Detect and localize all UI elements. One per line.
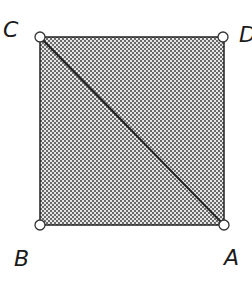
label-d: D	[239, 22, 252, 47]
vertex-a	[219, 220, 229, 230]
vertex-b	[35, 220, 45, 230]
label-a: A	[222, 245, 239, 270]
label-b: B	[14, 246, 29, 271]
label-c: C	[3, 17, 19, 42]
square-diagram: C D B A	[0, 0, 252, 290]
vertex-c	[35, 32, 45, 42]
vertex-d	[218, 32, 228, 42]
